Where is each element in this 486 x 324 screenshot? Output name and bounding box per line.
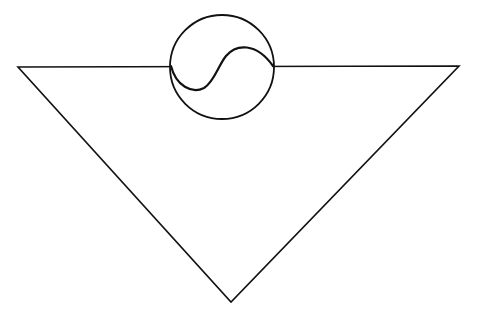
diagram-canvas [0,0,486,324]
yin-yang-circle [170,15,274,119]
diagram-svg [0,0,486,324]
